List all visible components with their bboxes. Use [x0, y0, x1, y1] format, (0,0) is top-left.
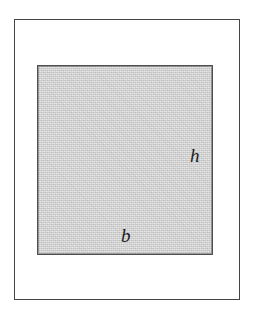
height-label: h: [190, 146, 200, 165]
figure-canvas: h b: [0, 0, 255, 318]
base-label: b: [121, 226, 131, 245]
